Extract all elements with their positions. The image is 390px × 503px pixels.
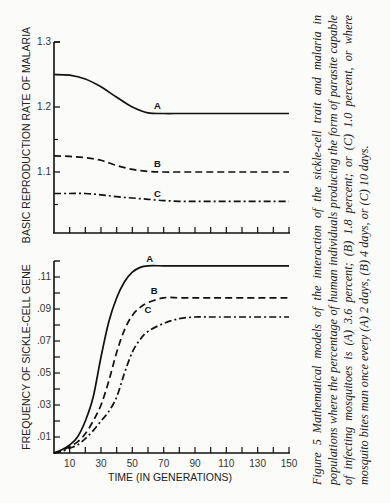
x-tick-label: 90 xyxy=(189,458,201,469)
figure-caption: Figure 5Mathematical models of the inter… xyxy=(310,15,372,485)
y-tick-label: 1.1 xyxy=(37,166,51,177)
x-tick-label: 130 xyxy=(249,458,266,469)
gene-frequency-chart: .01.03.05.07.09.111030507090110130150TIM… xyxy=(20,253,298,483)
figure: 1.11.21.3BASIC REPRODUCTION RATE OF MALA… xyxy=(0,0,390,503)
y-tick-label: 1.2 xyxy=(37,101,51,112)
caption-label: Figure 5 xyxy=(310,439,324,485)
curve-label-b: B xyxy=(151,285,158,296)
y-tick-label: .01 xyxy=(37,431,51,442)
curve-c xyxy=(54,317,289,453)
x-tick-label: 10 xyxy=(64,458,76,469)
curve-label-b: B xyxy=(154,158,161,169)
y-tick-label: .07 xyxy=(37,335,51,346)
reproduction-rate-chart: 1.11.21.3BASIC REPRODUCTION RATE OF MALA… xyxy=(20,27,290,243)
curve-label-a: A xyxy=(146,253,153,264)
curve-a xyxy=(54,266,289,453)
curve-b xyxy=(54,156,289,172)
x-tick-label: 70 xyxy=(158,458,170,469)
x-axis-label: TIME (IN GENERATIONS) xyxy=(108,471,232,483)
y-tick-label: 1.3 xyxy=(37,36,51,47)
y-tick-label: .05 xyxy=(37,367,51,378)
y-axis-label: FREQUENCY OF SICKLE-CELL GENE xyxy=(20,264,32,450)
curve-label-a: A xyxy=(154,100,161,111)
curve-label-c: C xyxy=(154,188,161,199)
x-tick-label: 30 xyxy=(95,458,107,469)
curve-a xyxy=(54,75,289,114)
y-tick-label: .11 xyxy=(38,271,52,282)
curve-label-c: C xyxy=(145,304,152,315)
y-axis-label: BASIC REPRODUCTION RATE OF MALARIA xyxy=(20,27,32,243)
y-tick-label: .09 xyxy=(37,303,51,314)
caption-text: Mathematical models of the interaction o… xyxy=(310,15,371,485)
curve-c xyxy=(54,193,289,201)
x-tick-label: 150 xyxy=(281,458,298,469)
x-tick-label: 110 xyxy=(218,458,234,469)
x-tick-label: 50 xyxy=(127,458,139,469)
y-tick-label: .03 xyxy=(37,399,51,410)
